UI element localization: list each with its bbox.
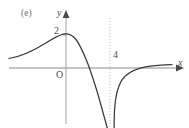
curve-left-branch	[9, 34, 107, 128]
y-tick-label-2: 2	[54, 26, 59, 36]
figure-panel: (e) y x O 2 4	[0, 0, 189, 128]
panel-label: (e)	[21, 9, 32, 19]
curve-right-branch	[114, 65, 172, 128]
x-axis-label: x	[178, 58, 182, 68]
x-tick-label-4: 4	[113, 50, 118, 60]
y-axis-label: y	[57, 8, 61, 18]
y-axis	[63, 10, 70, 124]
function-graph-svg	[0, 0, 189, 128]
y-axis-arrowhead-icon	[63, 10, 70, 18]
origin-label: O	[56, 70, 63, 80]
